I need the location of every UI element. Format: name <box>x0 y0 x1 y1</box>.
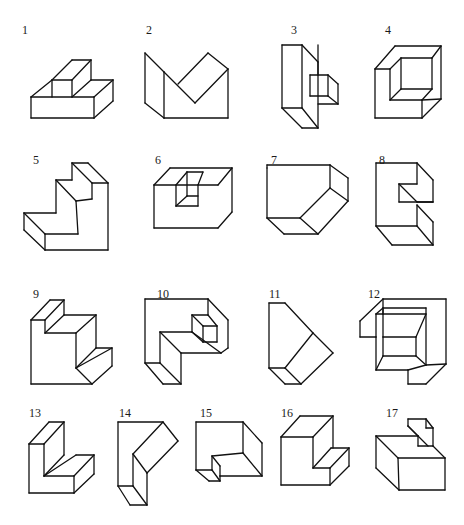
figure-label-12: 12 <box>368 288 380 300</box>
edge <box>76 201 78 234</box>
edge <box>133 422 163 454</box>
edge <box>212 470 220 481</box>
edge <box>94 101 113 118</box>
edge <box>133 486 147 505</box>
edge <box>318 201 348 234</box>
edge <box>418 436 428 446</box>
edge <box>300 188 330 218</box>
figure-10-shape <box>145 299 228 384</box>
edge <box>92 366 112 384</box>
edge <box>285 333 313 368</box>
edge <box>417 163 433 180</box>
figure-12-shape <box>360 299 446 384</box>
edge <box>72 80 91 97</box>
figure-label-1: 1 <box>22 24 28 36</box>
edge <box>76 348 112 368</box>
figure-label-4: 4 <box>385 24 391 36</box>
edge <box>376 308 383 314</box>
figure-label-11: 11 <box>269 288 281 300</box>
figure-13-shape <box>29 422 94 493</box>
figure-6-shape <box>154 168 232 228</box>
edge <box>302 108 318 128</box>
figure-label-10: 10 <box>157 288 169 300</box>
edge <box>302 45 318 62</box>
edge <box>408 365 426 370</box>
figure-17-shape <box>376 419 445 490</box>
edge <box>360 299 383 321</box>
edge <box>376 356 383 370</box>
edge <box>145 363 163 384</box>
edge <box>426 364 446 365</box>
figure-label-15: 15 <box>200 407 212 419</box>
figure-14-shape <box>118 422 178 505</box>
figure-7-shape <box>267 165 348 234</box>
figure-label-13: 13 <box>29 407 41 419</box>
figure-label-2: 2 <box>146 24 152 36</box>
edge <box>76 368 92 384</box>
edge <box>416 356 426 365</box>
edge <box>313 448 331 468</box>
figure-label-3: 3 <box>291 24 297 36</box>
figure-label-9: 9 <box>33 288 39 300</box>
edge <box>422 99 441 118</box>
figure-label-5: 5 <box>33 154 39 166</box>
edge <box>198 172 203 185</box>
figure-label-8: 8 <box>379 154 385 166</box>
edge <box>195 69 228 103</box>
figure-9-shape <box>31 300 112 384</box>
figure-4-shape <box>375 46 441 118</box>
edge <box>147 441 178 473</box>
edge <box>212 453 243 456</box>
edge <box>426 364 446 384</box>
edge <box>375 46 395 69</box>
figure-8-shape <box>376 163 433 245</box>
edge <box>178 53 208 84</box>
edge <box>145 53 164 72</box>
edge <box>390 58 401 69</box>
edge <box>330 466 349 485</box>
edge <box>300 218 318 234</box>
edge <box>154 168 170 185</box>
edge <box>285 303 313 333</box>
edge <box>44 455 76 476</box>
edge <box>417 205 433 222</box>
figure-sheet: 1234567891011121314151617 <box>0 0 464 525</box>
edge <box>398 458 399 490</box>
edge <box>208 315 217 326</box>
figure-2-shape <box>145 53 228 118</box>
edge <box>74 455 94 476</box>
edge <box>208 299 228 320</box>
edge <box>330 188 348 201</box>
figure-11-shape <box>269 303 333 384</box>
edge <box>145 103 164 118</box>
edge <box>164 72 195 103</box>
edge <box>313 416 333 437</box>
edge <box>313 333 333 353</box>
edge <box>330 448 349 468</box>
figure-5-shape <box>24 163 108 250</box>
edge <box>399 184 417 202</box>
edge <box>163 422 178 441</box>
edge <box>282 108 302 128</box>
edge <box>267 218 284 234</box>
edge <box>328 75 338 84</box>
edge <box>208 53 228 69</box>
edge <box>221 348 228 353</box>
edge <box>31 80 52 97</box>
edge <box>94 80 113 97</box>
edge <box>330 165 348 178</box>
figure-1-shape <box>31 60 113 118</box>
edge <box>44 422 64 444</box>
edge <box>88 163 108 183</box>
figure-16-shape <box>281 416 349 485</box>
edge <box>160 363 181 384</box>
edge <box>24 230 45 250</box>
figure-3-shape <box>282 45 338 128</box>
edge <box>376 226 392 245</box>
edge <box>433 446 445 458</box>
edge <box>243 453 262 476</box>
edge <box>376 436 398 458</box>
edge <box>76 315 96 333</box>
figure-label-14: 14 <box>119 407 131 419</box>
figure-label-16: 16 <box>281 407 293 419</box>
